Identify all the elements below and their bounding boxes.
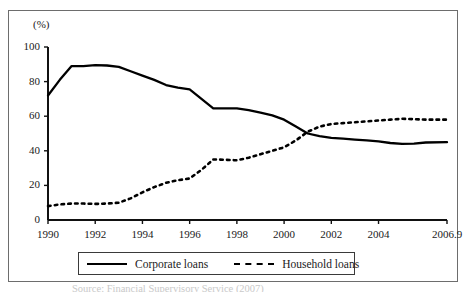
x-axis-tick-label: 1996: [179, 228, 201, 240]
series-line-household-loans: [48, 119, 447, 206]
dashed-line-swatch: [234, 259, 274, 269]
y-axis-tick-label: 80: [14, 75, 40, 87]
x-axis-tick-label: 2002: [320, 228, 342, 240]
source-caption: Source: Financial Supervisory Service (2…: [72, 283, 264, 292]
legend-item[interactable]: Household loans: [234, 258, 359, 270]
x-axis-tick-label: 1990: [37, 228, 59, 240]
legend-item-label: Corporate loans: [135, 258, 208, 270]
x-axis-tick-label: 2004: [368, 228, 390, 240]
line-chart-canvas: [0, 0, 467, 292]
axes: [48, 47, 447, 220]
x-axis-tick-label: 2000: [273, 228, 295, 240]
legend-item[interactable]: Corporate loans: [87, 258, 208, 270]
data-series-group: [48, 65, 447, 206]
legend-item-label: Household loans: [282, 258, 359, 270]
y-axis-tick-label: 20: [14, 178, 40, 190]
x-axis-tick-label: 2006.9: [432, 228, 462, 240]
x-axis-tick-label: 1994: [131, 228, 153, 240]
y-axis-tick-label: 0: [14, 213, 40, 225]
series-line-corporate-loans: [48, 65, 447, 144]
chart-legend: Corporate loansHousehold loans: [78, 252, 355, 275]
y-axis-tick-label: 100: [14, 40, 40, 52]
chart-container: (%) 020406080100 19901992199419961998200…: [0, 0, 467, 292]
x-axis-tick-label: 1998: [226, 228, 248, 240]
y-axis-tick-label: 40: [14, 144, 40, 156]
y-axis-tick-label: 60: [14, 109, 40, 121]
solid-line-swatch: [87, 259, 127, 269]
legend-entries: Corporate loansHousehold loans: [79, 253, 354, 274]
x-axis-tick-label: 1992: [84, 228, 106, 240]
